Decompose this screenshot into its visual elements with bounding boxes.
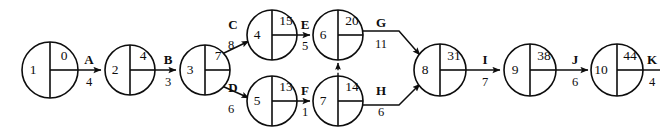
node-10-id: 10 [594,62,608,77]
activity-K-duration: 4 [649,75,656,89]
node-8-id: 8 [422,62,429,77]
node-2[interactable]: 2 4 [105,45,155,95]
activity-G-duration: 11 [375,37,387,51]
edge-C [222,41,249,54]
node-9[interactable]: 9 38 [504,44,556,96]
activity-F-name: F [301,83,309,98]
edge-layer [78,31,660,105]
node-4-value: 15 [279,13,293,28]
node-6[interactable]: 6 20 [313,10,363,60]
node-8[interactable]: 8 31 [414,44,466,96]
activity-C-name: C [228,17,237,32]
activity-G-name: G [376,15,386,30]
activity-E-duration: 5 [302,39,308,53]
node-3-id: 3 [187,62,194,77]
activity-B-duration: 3 [165,75,171,89]
activity-A-duration: 4 [86,75,93,89]
node-1-value: 0 [61,48,68,63]
node-6-id: 6 [320,27,327,42]
node-8-value: 31 [447,48,461,63]
node-3-value: 7 [215,48,222,63]
node-10[interactable]: 10 44 [591,44,643,96]
node-1[interactable]: 1 0 [22,42,78,98]
node-4[interactable]: 4 15 [247,10,297,60]
node-3[interactable]: 3 7 [180,45,230,95]
node-10-value: 44 [623,48,637,63]
activity-I-duration: 7 [482,75,488,89]
node-2-id: 2 [112,62,119,77]
node-9-value: 38 [537,48,551,63]
node-5-id: 5 [254,93,261,108]
network-diagram-canvas: 1 0 2 4 3 7 4 15 [0,0,660,136]
activity-B-name: B [164,52,173,67]
activity-A-name: A [84,52,94,67]
activity-C-duration: 8 [228,38,234,52]
activity-J-duration: 6 [572,75,578,89]
activity-D-name: D [228,80,237,95]
network-diagram-svg: 1 0 2 4 3 7 4 15 [0,0,660,136]
node-6-value: 20 [345,13,359,28]
edge-H [363,84,420,105]
activity-H-duration: 6 [378,105,384,119]
node-2-value: 4 [140,48,147,63]
node-7[interactable]: 7 14 [313,76,363,126]
node-5[interactable]: 5 13 [247,76,297,126]
activity-E-name: E [301,17,310,32]
node-7-value: 14 [345,79,359,94]
activity-J-name: J [572,52,579,67]
node-1-id: 1 [30,62,37,77]
activity-I-name: I [482,52,487,67]
node-4-id: 4 [254,27,261,42]
node-layer: 1 0 2 4 3 7 4 15 [22,10,643,126]
activity-H-name: H [376,83,386,98]
node-5-value: 13 [279,79,293,94]
node-9-id: 9 [512,62,519,77]
activity-D-duration: 6 [228,102,234,116]
node-7-id: 7 [320,93,327,108]
edge-G [363,31,420,55]
activity-F-duration: 1 [302,105,308,119]
activity-K-name: K [647,52,658,67]
